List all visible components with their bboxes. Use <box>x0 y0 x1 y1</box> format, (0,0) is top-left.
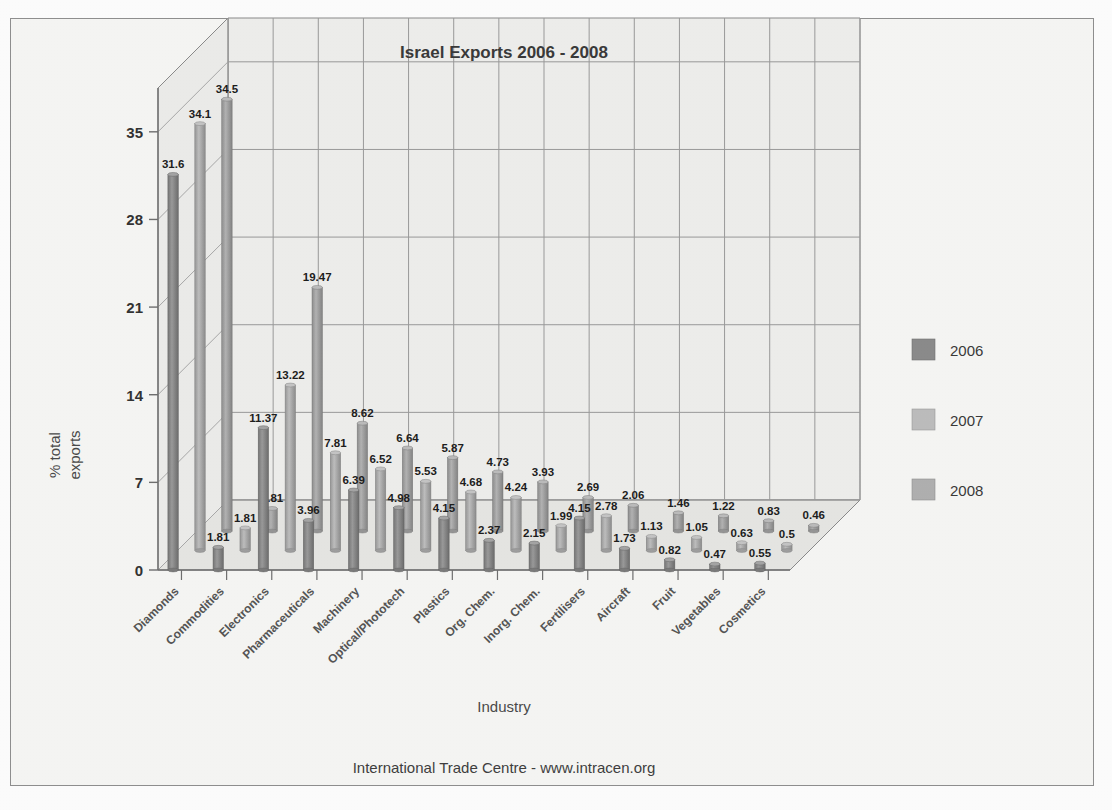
bar-2007-vegetables <box>737 541 747 553</box>
bar-2007-commodities <box>240 526 250 553</box>
bar-top-cap <box>601 514 611 518</box>
bar-top-cap <box>303 518 313 522</box>
x-axis-title: Industry <box>477 698 531 715</box>
bar-top-cap <box>213 545 223 549</box>
bar-top-cap <box>556 524 566 528</box>
bar-2007-plastics <box>466 490 476 553</box>
bar-2006-electronics <box>258 426 268 572</box>
bar-value-label: 8.62 <box>351 407 373 419</box>
bar-value-label: 6.39 <box>342 474 364 486</box>
bar-body <box>574 518 584 570</box>
bar-value-label: 11.37 <box>249 412 277 424</box>
bar-top-cap <box>619 546 629 550</box>
bar-top-cap <box>718 514 728 518</box>
y-axis-title-line1: % total <box>46 432 63 478</box>
bar-bottom-cap <box>809 529 819 533</box>
bar-2006-commodities <box>213 545 223 572</box>
bar-2008-diamonds <box>222 97 232 533</box>
bar-value-label: 0.47 <box>704 548 726 560</box>
bar-bottom-cap <box>285 549 295 553</box>
bar-top-cap <box>691 535 701 539</box>
bar-bottom-cap <box>439 568 449 572</box>
bar-top-cap <box>195 122 205 126</box>
bar-body <box>285 385 295 551</box>
bar-value-label: 3.96 <box>297 504 319 516</box>
bar-top-cap <box>710 562 720 566</box>
bar-value-label: 1.05 <box>685 521 708 533</box>
bar-body <box>168 174 178 570</box>
bar-top-cap <box>755 561 765 565</box>
bar-bottom-cap <box>664 568 674 572</box>
bar-value-label: 34.1 <box>189 108 212 120</box>
bar-body <box>538 482 548 531</box>
legend-label-2007: 2007 <box>950 412 983 429</box>
bar-bottom-cap <box>394 568 404 572</box>
bar-bottom-cap <box>529 568 539 572</box>
bar-bottom-cap <box>755 568 765 572</box>
bar-bottom-cap <box>691 549 701 553</box>
bar-top-cap <box>484 538 494 542</box>
bar-value-label: 6.64 <box>396 432 419 444</box>
bar-body <box>466 492 476 551</box>
bar-bottom-cap <box>348 568 358 572</box>
bar-top-cap <box>240 526 250 530</box>
bar-body <box>493 472 503 531</box>
bar-bottom-cap <box>782 549 792 553</box>
bar-top-cap <box>348 488 358 492</box>
bar-top-cap <box>421 479 431 483</box>
bar-bottom-cap <box>718 529 728 533</box>
bar-top-cap <box>285 383 295 387</box>
bar-top-cap <box>664 558 674 562</box>
bar-2006-pharmaceuticals <box>303 518 313 572</box>
bar-body <box>312 287 322 531</box>
bar-top-cap <box>222 97 232 101</box>
bar-top-cap <box>529 541 539 545</box>
bar-body <box>330 453 340 551</box>
bar-value-label: 31.6 <box>162 158 184 170</box>
y-axis-title-line2: exports <box>66 430 83 479</box>
bar-top-cap <box>447 456 457 460</box>
bar-2006-diamonds <box>168 172 178 572</box>
bar-2007-fertilisers <box>601 514 611 553</box>
exports-bar-chart: 07142128350.460.831.221.462.062.693.934.… <box>0 0 1112 810</box>
bar-bottom-cap <box>168 568 178 572</box>
bar-top-cap <box>394 506 404 510</box>
bar-value-label: 2.78 <box>595 500 618 512</box>
bar-body <box>258 428 268 570</box>
bar-2007-opticalphototech <box>421 479 431 552</box>
bar-top-cap <box>737 541 747 545</box>
bar-value-label: 4.68 <box>460 476 483 488</box>
bar-bottom-cap <box>737 549 747 553</box>
bar-top-cap <box>809 523 819 527</box>
bar-top-cap <box>628 503 638 507</box>
bar-2008-orgchem <box>538 480 548 533</box>
bar-2007-machinery <box>375 467 385 553</box>
bar-value-label: 0.82 <box>658 544 680 556</box>
bar-2008-electronics <box>312 285 322 533</box>
bar-body <box>439 518 449 570</box>
bar-2007-electronics <box>285 383 295 552</box>
bar-value-label: 7.81 <box>324 437 347 449</box>
bar-value-label: 1.13 <box>640 520 662 532</box>
bar-2007-diamonds <box>195 122 205 553</box>
bar-top-cap <box>574 516 584 520</box>
x-axis-category-label: Optical/Phototech <box>325 584 408 667</box>
bar-body <box>529 543 539 570</box>
bar-body <box>195 124 205 551</box>
bar-2007-fruit <box>691 535 701 552</box>
bar-value-label: 4.98 <box>388 492 411 504</box>
bar-value-label: 2.06 <box>622 489 644 501</box>
bar-2007-pharmaceuticals <box>330 451 340 553</box>
bar-value-label: 4.73 <box>487 456 509 468</box>
bar-top-cap <box>330 451 340 455</box>
bar-bottom-cap <box>646 549 656 553</box>
bar-value-label: 4.15 <box>433 502 456 514</box>
bar-2006-fruit <box>664 558 674 572</box>
bar-value-label: 2.69 <box>577 481 599 493</box>
bar-value-label: 1.73 <box>613 532 635 544</box>
bar-body <box>240 528 250 551</box>
x-axis-category-label: Aircraft <box>593 584 633 624</box>
bar-top-cap <box>312 285 322 289</box>
bar-bottom-cap <box>258 568 268 572</box>
bar-top-cap <box>673 511 683 515</box>
